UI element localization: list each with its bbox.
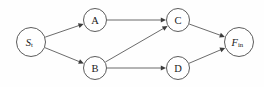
edge-b-to-d	[107, 66, 166, 71]
edge-st-to-b	[45, 48, 84, 64]
diagram-canvas: StABCDFin	[0, 0, 264, 87]
node-label-c: C	[174, 15, 181, 26]
node-label-main-b: B	[91, 63, 98, 74]
edge-c-to-fin	[189, 24, 225, 37]
edge-a-to-c	[107, 18, 166, 23]
nodes-layer: StABCDFin	[17, 9, 254, 80]
edge-st-to-a	[45, 23, 83, 37]
node-label-main-c: C	[174, 15, 181, 26]
graph-node-b[interactable]: B	[84, 57, 107, 80]
arrowhead-icon	[219, 33, 225, 38]
graph-node-st[interactable]: St	[17, 28, 46, 57]
node-label-main-a: A	[91, 15, 99, 26]
node-label-main-d: D	[174, 63, 182, 74]
node-label-subscript-st: t	[31, 41, 33, 48]
graph-svg: StABCDFin	[0, 0, 264, 87]
node-label-subscript-fin: in	[238, 41, 244, 48]
edges-layer	[45, 18, 225, 71]
graph-node-a[interactable]: A	[84, 9, 107, 32]
graph-node-fin[interactable]: Fin	[225, 28, 254, 57]
arrowhead-icon	[78, 23, 84, 28]
node-label-a: A	[91, 15, 99, 26]
node-label-b: B	[91, 63, 98, 74]
arrowhead-icon	[161, 18, 166, 23]
edge-d-to-fin	[189, 48, 225, 64]
graph-node-c[interactable]: C	[167, 9, 190, 32]
node-label-d: D	[174, 63, 182, 74]
arrowhead-icon	[161, 66, 166, 71]
edge-b-to-c	[105, 26, 167, 62]
graph-node-d[interactable]: D	[167, 57, 190, 80]
